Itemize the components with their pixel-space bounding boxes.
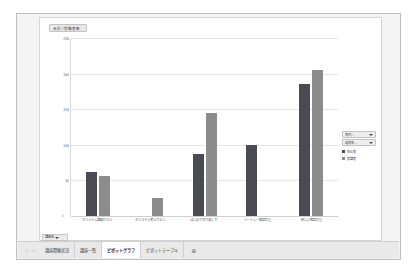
pivot-chart-object[interactable]: 合計 / 受験者数 0 50100150200250 オリジナル講座ひとつオリジ… (39, 17, 382, 241)
sheet-tab-active[interactable]: ピボットグラフ (102, 242, 141, 258)
sheet-tab-bar: ‹ › 講座開催状況講座一覧ピボットグラフピボットテーブル⊕ (18, 241, 399, 258)
chart-value-field-button[interactable]: 合計 / 受験者数 (49, 24, 87, 32)
legend-entry: 受講者 (342, 156, 376, 161)
workbook-window: 合計 / 受験者数 0 50100150200250 オリジナル講座ひとつオリジ… (16, 13, 401, 260)
sheet-row-field-button[interactable]: 講座名 (42, 234, 68, 241)
x-axis-category-label: 新しい教室の里 (284, 218, 338, 223)
legend-entry-group: 申込者受講者 (342, 149, 376, 161)
sheet-tabs: 講座開催状況講座一覧ピボットグラフピボットテーブル⊕ (40, 242, 203, 258)
x-axis-label-group: オリジナル講座ひとつオリジナル考えひとつはじめて作り直しでベートレー教室の里新し… (70, 218, 338, 223)
x-axis-category-label: ベートレー教室の里 (231, 218, 285, 223)
chevron-down-icon (369, 142, 373, 144)
bar-category-group (124, 38, 177, 216)
legend-color-swatch (342, 150, 345, 153)
y-axis-tick-label: 200 (63, 73, 69, 77)
bar[interactable] (152, 198, 163, 217)
x-axis-category-label: はじめて作り直しで (177, 218, 231, 223)
sheet-row-field-label: 講座名 (45, 234, 54, 241)
bar[interactable] (299, 84, 310, 216)
sheet-tab[interactable]: 講座開催状況 (40, 242, 75, 258)
legend-axis-filter-button[interactable]: 項目名... (342, 139, 376, 146)
worksheet-canvas[interactable]: 合計 / 受験者数 0 50100150200250 オリジナル講座ひとつオリジ… (18, 15, 399, 241)
bar[interactable] (193, 154, 204, 216)
gridline (71, 216, 338, 217)
bar[interactable] (246, 145, 257, 216)
next-sheet-icon[interactable]: › (33, 247, 35, 253)
bar-group (71, 38, 338, 216)
legend-color-swatch (342, 157, 345, 160)
axis-origin-marker: 0 (62, 214, 64, 218)
legend-entry-label: 申込者 (347, 149, 356, 154)
bar-category-group (178, 38, 231, 216)
excel-application-window: 合計 / 受験者数 0 50100150200250 オリジナル講座ひとつオリジ… (0, 0, 419, 275)
legend-entry: 申込者 (342, 149, 376, 154)
previous-sheet-icon[interactable]: ‹ (26, 247, 28, 253)
chevron-down-icon (369, 134, 373, 136)
bar-category-group (71, 38, 124, 216)
sheet-tab[interactable]: 講座一覧 (75, 242, 102, 258)
bar-category-group (231, 38, 284, 216)
x-axis-category-label: オリジナル講座ひとつ (70, 218, 124, 223)
y-axis-tick-label: 100 (63, 144, 69, 148)
y-axis-tick-label: 50 (65, 179, 69, 183)
legend-entry-label: 受講者 (347, 156, 356, 161)
bar[interactable] (99, 176, 110, 216)
y-axis-tick-label: 150 (63, 108, 69, 112)
legend-axis-filter-label: 項目名... (345, 140, 368, 145)
legend-series-filter-button[interactable]: 系列... (342, 131, 376, 138)
chart-legend-and-filters: 系列... 項目名... 申込者受講者 (342, 131, 376, 161)
plot-area: 50100150200250 (70, 38, 338, 216)
chevron-down-icon (55, 237, 59, 239)
legend-series-filter-label: 系列... (345, 132, 368, 137)
y-axis-tick-label: 250 (63, 37, 69, 41)
sheet-tab[interactable]: ピボットテーブル (141, 242, 184, 258)
bar[interactable] (86, 172, 97, 216)
bar[interactable] (206, 113, 217, 216)
x-axis-category-label: オリジナル考えひとつ (124, 218, 178, 223)
sheet-nav-arrows: ‹ › (18, 242, 40, 258)
bar-category-group (285, 38, 338, 216)
plot-inner: 50100150200250 (70, 38, 338, 216)
add-sheet-icon[interactable]: ⊕ (184, 242, 203, 258)
bar[interactable] (312, 70, 323, 216)
